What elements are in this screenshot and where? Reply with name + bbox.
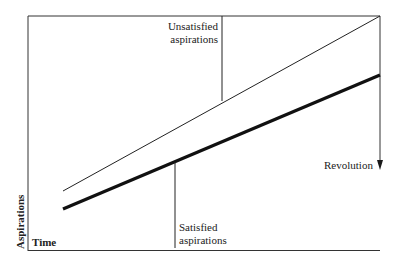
revolution-label: Revolution [324,159,373,172]
unsatisfied-label-line-1: Unsatisfied [168,20,218,33]
satisfied-label-line-1: Satisfied [179,221,227,234]
unsatisfied-label-line-2: aspirations [168,33,218,46]
y-axis-label: Aspirations [14,195,27,249]
satisfied-aspirations-label: Satisfied aspirations [179,221,227,247]
revolution-arrow-head-icon [377,160,383,170]
x-axis-label: Time [32,236,56,249]
unsatisfied-aspirations-label: Unsatisfied aspirations [168,20,218,46]
satisfied-label-line-2: aspirations [179,234,227,247]
